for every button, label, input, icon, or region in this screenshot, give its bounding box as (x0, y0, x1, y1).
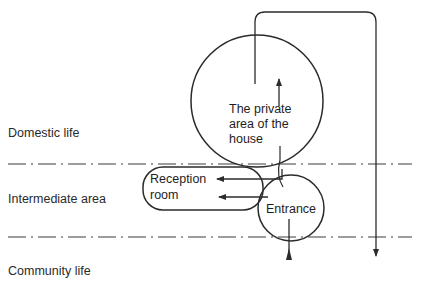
private-area-label-line1: The private (229, 102, 292, 117)
entrance-arrow-head (286, 248, 292, 260)
private-area-label-line2: area of the (229, 117, 289, 132)
zone-label-community: Community life (8, 264, 91, 279)
exit-path-arrow (255, 12, 376, 256)
reception-arrow-upper (217, 169, 282, 179)
private-area-circle (191, 35, 323, 167)
entrance-to-private-connector (279, 146, 283, 187)
zone-label-intermediate: Intermediate area (8, 192, 106, 207)
zone-label-domestic: Domestic life (8, 126, 80, 141)
private-area-label-line3: house (229, 132, 263, 147)
reception-label-line1: Reception (150, 172, 206, 187)
zone-diagram (0, 0, 421, 302)
entrance-label: Entrance (266, 202, 316, 217)
reception-label-line2: room (150, 188, 178, 203)
